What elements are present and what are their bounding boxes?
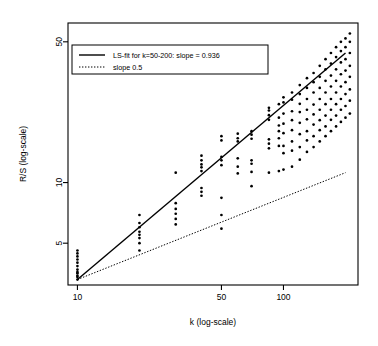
data-point (268, 138, 271, 141)
data-point (349, 52, 352, 55)
data-point (340, 61, 343, 64)
data-point (324, 103, 327, 106)
data-point (236, 132, 239, 135)
data-point (200, 187, 203, 190)
data-point (268, 142, 271, 145)
data-point (330, 118, 333, 121)
data-point (174, 212, 177, 215)
data-point (138, 237, 141, 240)
data-point (76, 249, 79, 252)
data-point (76, 261, 79, 264)
data-point (349, 40, 352, 43)
x-axis-label: k (log-scale) (190, 317, 236, 327)
data-point (335, 114, 338, 117)
data-point (344, 69, 347, 72)
data-point (268, 171, 271, 174)
data-point (298, 121, 301, 124)
data-point (174, 223, 177, 226)
data-point (349, 64, 352, 67)
data-point (200, 166, 203, 169)
data-point (291, 91, 294, 94)
data-point (349, 112, 352, 115)
data-point (306, 98, 309, 101)
data-point (174, 171, 177, 174)
data-point (324, 114, 327, 117)
y-tick-label: 5 (54, 241, 64, 246)
data-point (220, 139, 223, 142)
y-axis-label: R/S (log-scale) (18, 126, 28, 182)
rs-log-log-scatter-chart: 105010051050 LS-fit for k=50-200: slope … (0, 0, 378, 346)
data-point (138, 214, 141, 217)
data-point (282, 96, 285, 99)
data-point (291, 119, 294, 122)
data-point (330, 108, 333, 111)
data-point (330, 74, 333, 77)
data-point (340, 98, 343, 101)
y-tick-label: 50 (54, 37, 64, 47)
data-point (282, 122, 285, 125)
data-point (335, 91, 338, 94)
data-point (340, 108, 343, 111)
data-point (138, 222, 141, 225)
data-point (312, 146, 315, 149)
data-point (306, 108, 309, 111)
data-point (318, 64, 321, 67)
data-point (76, 265, 79, 268)
data-point (291, 110, 294, 113)
data-point (138, 230, 141, 233)
data-point (282, 168, 285, 171)
data-point (200, 194, 203, 197)
data-point (312, 135, 315, 138)
data-point (344, 116, 347, 119)
data-point (200, 190, 203, 193)
data-point (291, 165, 294, 168)
data-point (330, 98, 333, 101)
data-point (174, 208, 177, 211)
data-point (330, 130, 333, 133)
data-point (312, 113, 315, 116)
data-point (278, 103, 281, 106)
data-point (318, 140, 321, 143)
data-point (306, 77, 309, 80)
figure-panel: 105010051050 LS-fit for k=50-200: slope … (0, 0, 378, 346)
data-point (278, 116, 281, 119)
x-tick-label: 10 (73, 292, 83, 302)
data-point (335, 56, 338, 59)
data-point (312, 72, 315, 75)
data-point (344, 58, 347, 61)
data-point (306, 151, 309, 154)
data-point (324, 135, 327, 138)
data-point (250, 159, 253, 162)
data-point (318, 129, 321, 132)
data-point (298, 102, 301, 105)
data-point (306, 139, 309, 142)
data-point (344, 105, 347, 108)
data-point (76, 271, 79, 274)
data-point (349, 88, 352, 91)
data-point (220, 214, 223, 217)
data-point (335, 125, 338, 128)
data-point (340, 40, 343, 43)
data-point (291, 140, 294, 143)
data-point (250, 171, 253, 174)
data-point (344, 81, 347, 84)
data-point (268, 109, 271, 112)
data-point (236, 172, 239, 175)
data-point (138, 249, 141, 252)
data-point (200, 154, 203, 157)
data-point (324, 79, 327, 82)
legend-label: slope 0.5 (113, 63, 142, 72)
data-point (76, 274, 79, 277)
data-point (278, 130, 281, 133)
data-point (340, 121, 343, 124)
data-point (312, 123, 315, 126)
data-point (236, 165, 239, 168)
data-point (268, 107, 271, 110)
data-point (324, 125, 327, 128)
data-point (200, 170, 203, 173)
data-point (278, 145, 281, 148)
data-point (220, 227, 223, 230)
data-point (236, 137, 239, 140)
data-point (340, 85, 343, 88)
data-point (318, 108, 321, 111)
